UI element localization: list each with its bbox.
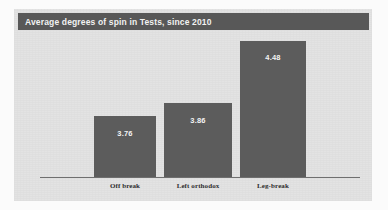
bar-value-off-break: 3.76 — [94, 129, 156, 138]
category-label-off-break: Off break — [94, 182, 156, 190]
x-axis-line — [40, 177, 360, 178]
bar-off-break[interactable]: 3.76 — [94, 116, 156, 177]
chart-title: Average degrees of spin in Tests, since … — [25, 17, 212, 27]
chart-title-bar: Average degrees of spin in Tests, since … — [18, 13, 369, 30]
bar-value-leg-break: 4.48 — [240, 53, 306, 62]
category-label-leg-break: Leg-break — [240, 182, 306, 190]
chart-screenshot: Average degrees of spin in Tests, since … — [0, 0, 388, 210]
bar-left-orthodox[interactable]: 3.86 — [164, 103, 232, 177]
bar-leg-break[interactable]: 4.48 — [240, 41, 306, 177]
bar-value-left-orthodox: 3.86 — [164, 116, 232, 125]
category-label-left-orthodox: Left orthodox — [164, 182, 232, 190]
plot-area: 3.76 Off break 3.86 Left orthodox 4.48 L… — [18, 34, 369, 184]
